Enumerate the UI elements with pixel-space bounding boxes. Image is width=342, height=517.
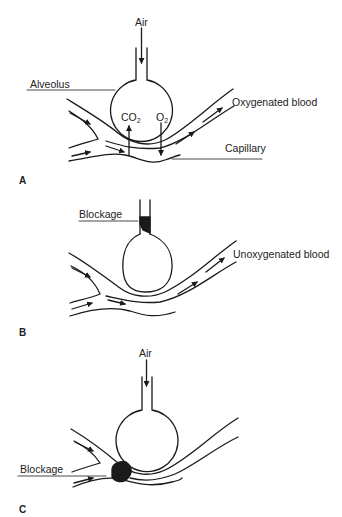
alveolus-label: Alveolus	[30, 78, 70, 90]
panel-b-label: B	[19, 327, 26, 338]
air-label: Air	[139, 347, 152, 359]
blockage-clot	[112, 462, 131, 482]
capillary-lower-wall	[69, 154, 180, 162]
blockage-label: Blockage	[79, 208, 122, 220]
co2-label: CO2	[121, 111, 141, 127]
panel-a-label: A	[19, 175, 26, 186]
air-label: Air	[135, 16, 148, 28]
capillary-branch-wall	[69, 111, 98, 148]
unoxygenated-blood-label: Unoxygenated blood	[233, 248, 329, 260]
capillary-upper-wall	[67, 89, 233, 144]
alveolus-shape	[116, 377, 178, 472]
blockage-label: Blockage	[20, 463, 63, 475]
panel-c-label: C	[19, 504, 26, 515]
o2-label: O2	[156, 111, 168, 127]
blockage-plug	[140, 217, 150, 233]
oxygenated-blood-label: Oxygenated blood	[232, 96, 317, 108]
collapsed-alveolus-shape	[123, 234, 172, 292]
capillary-label: Capillary	[225, 142, 266, 154]
